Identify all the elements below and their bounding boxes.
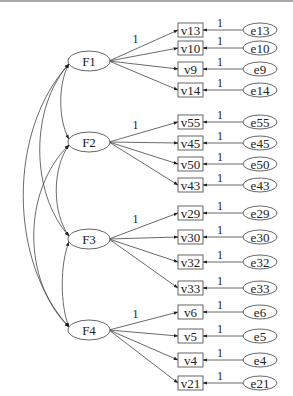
observed-variable-v14[interactable]: v14 [178,83,203,98]
loading-path-F4-v5 [109,330,178,336]
error-path-label: 1 [217,199,223,213]
error-path-label: 1 [217,369,223,383]
svg-text:v29: v29 [181,206,201,221]
error-path-label: 1 [217,322,223,336]
svg-text:e9: e9 [254,62,266,77]
error-path-label: 1 [217,171,223,185]
svg-text:F4: F4 [82,323,96,338]
loading-label-F3: 1 [133,212,139,226]
svg-text:e45: e45 [251,136,270,151]
loading-label-F4: 1 [133,307,139,321]
error-term-e32[interactable]: e32 [243,255,277,270]
svg-text:v33: v33 [181,281,201,296]
error-path-label: 1 [217,274,223,288]
svg-text:F2: F2 [82,135,96,150]
error-term-e10[interactable]: e10 [243,41,277,56]
error-term-e45[interactable]: e45 [243,136,277,151]
error-term-e21[interactable]: e21 [243,376,277,391]
error-path-label: 1 [217,346,223,360]
observed-variable-v30[interactable]: v30 [178,230,203,245]
observed-variable-v50[interactable]: v50 [178,157,203,172]
svg-text:e4: e4 [254,353,267,368]
observed-variable-v6[interactable]: v6 [178,305,203,320]
loading-path-F4-v4 [109,330,178,360]
svg-text:v13: v13 [181,23,201,38]
observed-variable-v29[interactable]: v29 [178,206,203,221]
error-term-e6[interactable]: e6 [243,305,277,320]
error-term-e4[interactable]: e4 [243,353,277,368]
error-path-label: 1 [217,248,223,262]
latent-factor-F2[interactable]: F2 [68,132,110,152]
svg-text:v32: v32 [181,255,201,270]
error-path-label: 1 [217,223,223,237]
error-term-e43[interactable]: e43 [243,178,277,193]
observed-variable-v32[interactable]: v32 [178,255,203,270]
observed-variable-v5[interactable]: v5 [178,329,203,344]
svg-text:v55: v55 [181,115,201,130]
error-term-e5[interactable]: e5 [243,329,277,344]
error-term-e29[interactable]: e29 [243,206,277,221]
loading-label-F2: 1 [133,118,139,132]
svg-text:v10: v10 [181,41,201,56]
observed-variable-v55[interactable]: v55 [178,115,203,130]
loading-path-F2-v45 [109,142,178,143]
error-path-label: 1 [217,55,223,69]
error-term-e13[interactable]: e13 [243,23,277,38]
svg-text:e32: e32 [251,255,270,270]
loading-path-F4-v21 [109,330,178,383]
svg-text:F3: F3 [82,232,96,247]
loading-path-F3-v32 [109,239,178,262]
svg-text:v14: v14 [181,83,201,98]
svg-text:v21: v21 [181,376,201,391]
error-path-label: 1 [217,16,223,30]
error-term-e50[interactable]: e50 [243,157,277,172]
error-path-label: 1 [217,129,223,143]
sem-diagram: 11111111111111111111 v13e13v10e10v9e9v14… [0,0,293,396]
svg-text:v6: v6 [184,305,198,320]
error-term-e55[interactable]: e55 [243,115,277,130]
observed-variable-v33[interactable]: v33 [178,281,203,296]
svg-text:v9: v9 [184,62,197,77]
observed-variable-v45[interactable]: v45 [178,136,203,151]
latent-factor-F4[interactable]: F4 [68,320,110,340]
loading-path-F1-v10 [109,48,178,61]
svg-text:e10: e10 [251,41,270,56]
svg-text:v45: v45 [181,136,201,151]
loading-path-F2-v55 [109,122,178,142]
error-path-label: 1 [217,298,223,312]
loading-path-F4-v6 [109,312,178,330]
loading-path-F2-v43 [109,142,178,185]
error-term-e14[interactable]: e14 [243,83,277,98]
loading-path-F3-v30 [109,237,178,239]
observed-variable-v21[interactable]: v21 [178,376,203,391]
observed-variable-v4[interactable]: v4 [178,353,203,368]
covariance-F2-F3 [56,145,69,236]
observed-variable-v10[interactable]: v10 [178,41,203,56]
loading-path-F1-v13 [109,30,178,61]
svg-text:e5: e5 [254,329,266,344]
latent-factor-F3[interactable]: F3 [68,229,110,249]
covariance-F3-F4 [62,242,69,327]
observed-variable-v43[interactable]: v43 [178,178,203,193]
error-path-label: 1 [217,34,223,48]
svg-text:e30: e30 [251,230,270,245]
observed-variable-v13[interactable]: v13 [178,23,203,38]
latent-factor-F1[interactable]: F1 [68,51,110,71]
error-term-e33[interactable]: e33 [243,281,277,296]
svg-text:v30: v30 [181,230,201,245]
error-term-e30[interactable]: e30 [243,230,277,245]
svg-text:v50: v50 [181,157,201,172]
error-path-label: 1 [217,76,223,90]
svg-text:e55: e55 [251,115,270,130]
svg-text:e33: e33 [251,281,270,296]
error-path-label: 1 [217,108,223,122]
svg-text:v4: v4 [184,353,198,368]
svg-text:F1: F1 [82,54,96,69]
error-term-e9[interactable]: e9 [243,62,277,77]
error-path-label: 1 [217,150,223,164]
observed-variable-v9[interactable]: v9 [178,62,203,77]
loading-label-F1: 1 [133,32,139,46]
covariance-F2-F4 [34,145,69,327]
loading-path-F2-v50 [109,142,178,164]
svg-text:e14: e14 [251,83,270,98]
